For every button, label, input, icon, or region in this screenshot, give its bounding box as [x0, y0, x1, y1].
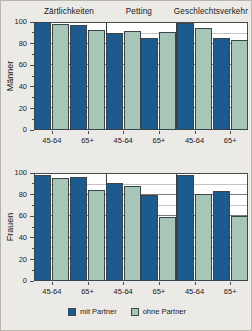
x-tick-mark [52, 131, 53, 134]
x-tick-group: 65+ [212, 131, 248, 149]
bar-group [34, 22, 70, 130]
bar-group [70, 22, 106, 130]
plot-area-frauen [34, 173, 248, 281]
x-tick-mark [123, 282, 124, 285]
x-tick-label: 65+ [70, 287, 106, 296]
bar-ohne-partner [88, 30, 105, 130]
y-tick-label: 100 [14, 169, 30, 177]
x-tick-label: 45-64 [34, 287, 70, 296]
panel-title-zaertlichkeiten: Zärtlichkeiten [34, 7, 104, 22]
legend-item-ohne-partner: ohne Partner [131, 307, 186, 316]
bar-mit-partner [177, 175, 194, 281]
x-axis-maenner: 45-6465+45-6465+45-6465+ [34, 131, 248, 149]
bar-mit-partner [106, 183, 123, 281]
x-tick-group: 45-64 [105, 282, 141, 300]
bar-ohne-partner [159, 32, 176, 130]
bar-mit-partner [70, 25, 87, 130]
bar-mit-partner [213, 38, 230, 130]
bar-mit-partner [177, 23, 194, 130]
y-tick-label: 100 [14, 18, 30, 26]
legend-label-mit-partner: mit Partner [80, 307, 117, 316]
bar-ohne-partner [231, 40, 248, 130]
x-tick-group: 45-64 [177, 282, 213, 300]
legend-swatch-ohne-partner [131, 308, 139, 316]
x-tick-label: 45-64 [105, 136, 141, 145]
y-tick-label: 20 [19, 105, 30, 113]
x-tick-mark [230, 282, 231, 285]
bar-groups-frauen [34, 173, 248, 281]
x-tick-group: 45-64 [105, 131, 141, 149]
chart-legend: mit Partner ohne Partner [1, 307, 252, 316]
x-tick-group: 45-64 [34, 282, 70, 300]
bar-ohne-partner [231, 216, 248, 281]
bar-group [177, 173, 213, 281]
x-tick-mark [230, 131, 231, 134]
x-tick-mark [88, 131, 89, 134]
bar-group [70, 173, 106, 281]
bar-ohne-partner [52, 178, 69, 281]
y-axis-ticks-frauen: 020406080100 [1, 173, 34, 281]
y-tick-label: 40 [19, 234, 30, 242]
x-tick-label: 45-64 [34, 136, 70, 145]
x-tick-label: 65+ [70, 136, 106, 145]
bar-group [177, 22, 213, 130]
x-tick-group: 65+ [70, 282, 106, 300]
panel-title-row: Zärtlichkeiten Petting Geschlechtsverkeh… [34, 7, 248, 22]
bar-group [141, 22, 177, 130]
bar-mit-partner [141, 195, 158, 281]
legend-item-mit-partner: mit Partner [68, 307, 117, 316]
bar-group [212, 173, 248, 281]
bar-group [34, 173, 70, 281]
bar-ohne-partner [52, 24, 69, 130]
y-tick-label: 0 [23, 277, 30, 285]
x-tick-mark [159, 282, 160, 285]
x-tick-label: 65+ [141, 287, 177, 296]
x-axis-frauen: 45-6465+45-6465+45-6465+ [34, 282, 248, 300]
x-tick-label: 65+ [141, 136, 177, 145]
x-tick-label: 65+ [212, 136, 248, 145]
bar-mit-partner [213, 191, 230, 281]
panel-title-geschlechtsverkehr: Geschlechtsverkehr [174, 7, 248, 22]
x-tick-label: 45-64 [177, 136, 213, 145]
bar-mit-partner [106, 33, 123, 130]
bar-ohne-partner [159, 217, 176, 281]
subplot-maenner: Männer 020406080100 45-6465+45-6465+45-6… [1, 22, 252, 152]
x-tick-mark [159, 131, 160, 134]
x-tick-label: 65+ [212, 287, 248, 296]
x-tick-group: 65+ [212, 282, 248, 300]
y-tick-label: 20 [19, 256, 30, 264]
bar-ohne-partner [124, 31, 141, 130]
subplot-frauen: Frauen 020406080100 45-6465+45-6465+45-6… [1, 173, 252, 303]
legend-swatch-mit-partner [68, 308, 76, 316]
bar-groups-maenner [34, 22, 248, 130]
x-tick-mark [195, 131, 196, 134]
bar-mit-partner [70, 177, 87, 281]
x-tick-mark [195, 282, 196, 285]
bar-group [105, 22, 141, 130]
bar-ohne-partner [88, 190, 105, 281]
y-axis-ticks-maenner: 020406080100 [1, 22, 34, 130]
x-tick-group: 65+ [70, 131, 106, 149]
x-tick-mark [88, 282, 89, 285]
x-tick-group: 45-64 [177, 131, 213, 149]
x-tick-group: 65+ [141, 282, 177, 300]
panel-title-petting: Petting [104, 7, 174, 22]
y-tick-label: 60 [19, 212, 30, 220]
x-tick-group: 65+ [141, 131, 177, 149]
chart-figure: Zärtlichkeiten Petting Geschlechtsverkeh… [0, 0, 252, 331]
bar-group [141, 173, 177, 281]
bar-ohne-partner [195, 194, 212, 281]
x-tick-label: 45-64 [177, 287, 213, 296]
bar-mit-partner [34, 22, 51, 130]
y-tick-label: 80 [19, 191, 30, 199]
bar-ohne-partner [195, 28, 212, 130]
x-tick-label: 45-64 [105, 287, 141, 296]
bar-ohne-partner [124, 186, 141, 281]
bar-mit-partner [141, 38, 158, 130]
x-tick-mark [52, 282, 53, 285]
y-tick-label: 60 [19, 61, 30, 69]
legend-label-ohne-partner: ohne Partner [143, 307, 186, 316]
bar-group [212, 22, 248, 130]
bar-mit-partner [34, 175, 51, 281]
y-tick-label: 40 [19, 83, 30, 91]
